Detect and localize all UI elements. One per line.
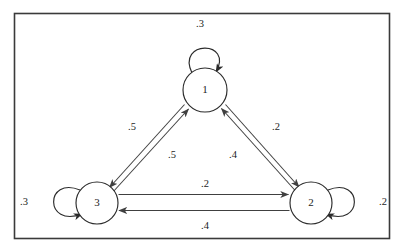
weight-label-1-3: .5 <box>128 121 136 132</box>
weight-label-self-2: .2 <box>379 196 387 207</box>
state-transition-diagram: 1 2 3 .3 .3 .2 .5 .5 .2 .4 .2 .4 <box>0 0 406 252</box>
node-1-label: 1 <box>202 83 208 95</box>
node-2-label: 2 <box>308 196 314 208</box>
figure-border <box>15 14 390 239</box>
weight-label-3-1: .5 <box>168 149 176 160</box>
weight-label-self-1: .3 <box>196 18 204 29</box>
weight-label-2-3: .4 <box>201 220 210 231</box>
weight-label-3-2: .2 <box>201 178 209 189</box>
weight-label-self-3: .3 <box>20 196 28 207</box>
node-3-label: 3 <box>94 196 100 208</box>
weight-label-1-2: .2 <box>272 121 280 132</box>
diagram-canvas: 1 2 3 .3 .3 .2 .5 .5 .2 .4 .2 .4 <box>0 0 406 252</box>
weight-label-2-1: .4 <box>229 149 238 160</box>
